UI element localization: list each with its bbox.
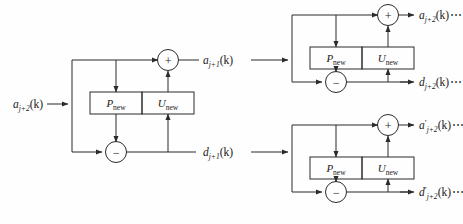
mid-top-arg: (k): [220, 54, 234, 67]
out-br-top-sub: j+2: [426, 125, 438, 134]
update-sub-bottom-right: new: [386, 168, 399, 177]
out-tr-top-ellipsis: ⋯: [450, 9, 462, 21]
update-block-label-top-right: Unew: [378, 52, 399, 67]
output-label-top-right-approx: aj+2(k)⋯: [419, 9, 462, 24]
mid-top-sub: j+1: [208, 60, 220, 69]
mid-top-signal-label: aj+1(k): [203, 54, 233, 69]
out-tr-bottom-ellipsis: ⋯: [450, 76, 462, 88]
out-br-bottom-ellipsis: ⋯: [452, 186, 463, 198]
minus-glyph-left: −: [112, 146, 120, 160]
output-label-bottom-right-detail: d′j+2(k)⋯: [419, 185, 463, 202]
out-tr-top-sub: j+2: [424, 15, 436, 24]
minus-glyph-bottom-right: −: [332, 186, 340, 200]
mid-bottom-arg: (k): [220, 146, 234, 159]
update-block-label-bottom-right: Unew: [378, 162, 399, 177]
predict-block-label-top-right: Pnew: [325, 52, 346, 67]
lifting-stage-bottom-right: [292, 115, 414, 203]
predict-block-label-bottom-right: Pnew: [325, 162, 346, 177]
diagram-canvas: + − + − + − Pnew Unew Pnew Unew Pnew Une…: [0, 0, 463, 224]
out-br-bottom-arg: (k): [438, 186, 452, 199]
mid-bottom-signal-label: dj+1(k): [203, 146, 233, 161]
out-tr-top-arg: (k): [436, 9, 450, 22]
update-block-label-left: Unew: [158, 97, 179, 112]
output-label-bottom-right-approx: a′j+2(k)⋯: [419, 118, 463, 135]
minus-glyph-top-right: −: [332, 76, 340, 90]
predict-sub-bottom-right: new: [333, 168, 346, 177]
mid-bottom-sub: j+1: [208, 152, 220, 161]
lifting-stage-top-right: [292, 5, 414, 93]
out-br-top-ellipsis: ⋯: [452, 119, 463, 131]
input-signal-sub: j+2: [18, 104, 30, 113]
update-sub-top-right: new: [386, 58, 399, 67]
plus-glyph-left: +: [164, 54, 172, 68]
plus-glyph-bottom-right: +: [384, 119, 392, 133]
output-label-top-right-detail: dj+2(k)⋯: [419, 76, 462, 91]
lifting-scheme-diagram: + − + − + − Pnew Unew Pnew Unew Pnew Une…: [0, 0, 463, 224]
update-sub-left: new: [166, 103, 179, 112]
out-br-bottom-sub: j+2: [426, 192, 438, 201]
out-tr-bottom-sub: j+2: [424, 82, 436, 91]
out-br-top-arg: (k): [438, 119, 452, 132]
predict-block-label-left: Pnew: [105, 97, 126, 112]
plus-glyph-top-right: +: [384, 9, 392, 23]
predict-sub-left: new: [113, 103, 126, 112]
out-tr-bottom-arg: (k): [436, 76, 450, 89]
input-signal-arg: (k): [30, 98, 44, 111]
input-signal-label-left: aj+2(k): [13, 98, 43, 113]
predict-sub-top-right: new: [333, 58, 346, 67]
